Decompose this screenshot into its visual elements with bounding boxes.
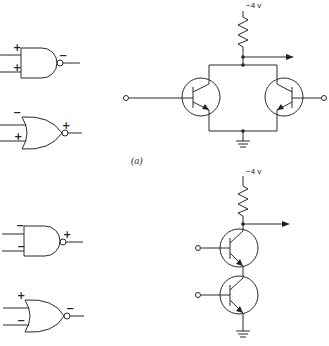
ground-icon — [236, 141, 250, 147]
npn-transistor-icon — [124, 78, 221, 116]
nor-gate-2: − + + — [0, 107, 82, 149]
gate-1-input-b-sign: + — [13, 62, 21, 73]
series-transistor-circuit: −4 v — [196, 167, 291, 337]
npn-transistor-icon — [196, 276, 259, 314]
nor-gate-4: + − − — [3, 290, 84, 332]
nand-gate-3: − − + — [2, 220, 83, 256]
gate-1-output-sign: − — [59, 50, 67, 61]
gate-3-input-a-sign: − — [16, 220, 24, 231]
gate-2-output-sign: + — [62, 120, 70, 131]
gate-4-input-a-sign: + — [17, 290, 25, 301]
input-terminal — [196, 246, 201, 251]
gate-1-input-a-sign: + — [13, 42, 21, 53]
input-terminal — [124, 96, 129, 101]
npn-transistor-icon — [265, 78, 327, 116]
npn-transistor-icon — [196, 229, 259, 267]
gate-3-input-b-sign: − — [17, 241, 25, 252]
resistor-icon — [238, 186, 248, 216]
resistor-icon — [238, 17, 248, 47]
nand-gate-1: + + − — [0, 42, 80, 78]
supply-voltage-label-bottom: −4 v — [246, 167, 261, 176]
ground-icon — [236, 331, 250, 337]
input-terminal — [322, 96, 327, 101]
gate-2-input-a-sign: − — [13, 107, 21, 118]
gate-3-output-sign: + — [63, 229, 71, 240]
figure-caption-label: (a) — [131, 155, 143, 167]
parallel-transistor-circuit: −4 v — [124, 1, 327, 147]
gate-4-output-sign: − — [66, 303, 74, 314]
output-arrow-icon — [282, 221, 290, 227]
supply-voltage-label-top: −4 v — [246, 1, 261, 10]
gate-2-input-b-sign: + — [14, 131, 22, 142]
gate-4-input-b-sign: − — [17, 315, 25, 326]
output-arrow-icon — [286, 54, 294, 60]
input-terminal — [196, 293, 201, 298]
